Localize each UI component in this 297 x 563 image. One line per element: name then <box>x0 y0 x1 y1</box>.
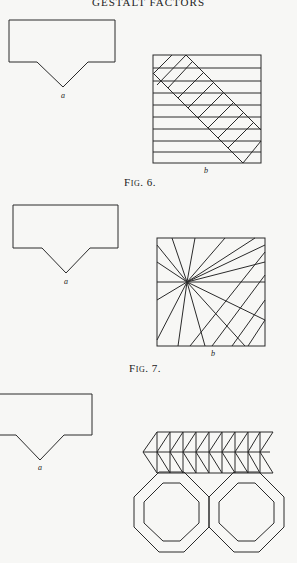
fig7-label-b: b <box>208 349 218 358</box>
fig7-b-shape <box>157 238 265 346</box>
fig8-b-shape <box>134 432 284 552</box>
fig8-label-a: a <box>35 463 45 472</box>
fig6-a-shape <box>9 20 115 87</box>
fig6-b-shape <box>153 55 261 163</box>
figures-canvas <box>0 0 297 563</box>
fig7-label-a: a <box>61 277 71 286</box>
fig6-label-a: a <box>58 91 68 100</box>
fig7-a-shape <box>13 205 118 273</box>
fig7-caption: Fig. 7. <box>115 362 175 374</box>
fig6-label-b: b <box>201 166 211 175</box>
fig8-a-shape <box>0 394 92 460</box>
fig6-caption: Fig. 6. <box>110 176 170 188</box>
